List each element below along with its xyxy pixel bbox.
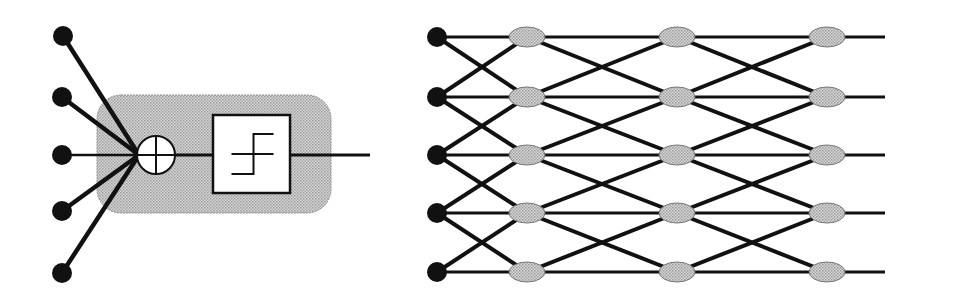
network-input-nodes <box>427 27 447 282</box>
input-node <box>52 145 72 165</box>
single-neuron-diagram <box>52 26 370 283</box>
hidden-node <box>509 27 545 47</box>
step-function-icon <box>213 115 290 193</box>
hidden-node <box>509 145 545 165</box>
input-weights <box>62 36 139 273</box>
input-node <box>427 262 447 282</box>
hidden-node <box>659 87 695 107</box>
input-node <box>427 27 447 47</box>
input-node <box>52 87 72 107</box>
input-node <box>53 26 73 46</box>
input-node <box>52 201 72 221</box>
hidden-node <box>809 87 845 107</box>
hidden-node <box>809 145 845 165</box>
hidden-node <box>509 87 545 107</box>
input-nodes <box>52 26 73 283</box>
neural-network-figure <box>0 0 967 305</box>
hidden-node <box>659 203 695 223</box>
hidden-node <box>509 203 545 223</box>
summation-icon <box>137 136 175 174</box>
figure-canvas <box>0 0 967 305</box>
hidden-node <box>659 27 695 47</box>
hidden-node <box>809 262 845 282</box>
input-node <box>427 203 447 223</box>
hidden-node <box>659 145 695 165</box>
hidden-node <box>809 203 845 223</box>
hidden-node <box>509 262 545 282</box>
input-node <box>427 145 447 165</box>
input-node <box>427 87 447 107</box>
hidden-node <box>809 27 845 47</box>
input-node <box>52 263 72 283</box>
layered-network-diagram <box>427 27 885 282</box>
hidden-node <box>659 262 695 282</box>
